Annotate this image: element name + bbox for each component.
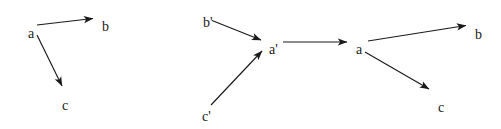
node-label-right-diagram-a-prime: a' [269, 43, 278, 57]
node-label-right-diagram-b-prime: b' [203, 16, 213, 30]
node-label-left-diagram-a: a [28, 27, 34, 41]
node-label-left-diagram-c: c [62, 99, 68, 113]
edge-bprime-to-aprime [212, 21, 261, 41]
node-label-right-diagram-c-prime: c' [202, 110, 211, 124]
edge-a-to-c [365, 52, 429, 89]
node-label-left-diagram-b: b [102, 20, 109, 34]
node-label-right-diagram-c: c [438, 101, 444, 115]
edge-a-to-b [368, 26, 466, 42]
node-label-right-diagram-a: a [356, 43, 362, 57]
node-label-right-diagram-b: b [475, 28, 482, 42]
diagram-svg [0, 0, 501, 129]
edge-a-to-c [37, 35, 62, 86]
edge-a-to-b [37, 19, 93, 26]
edge-cprime-to-aprime [211, 51, 262, 105]
diagram-canvas: abcb'c'a'abc [0, 0, 501, 129]
